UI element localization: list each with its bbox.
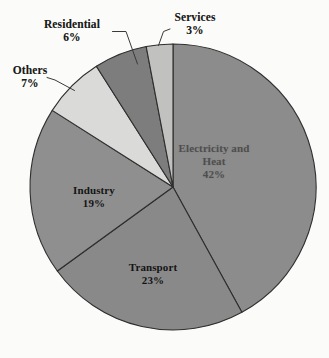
slice-label-services-pct: 3% <box>159 24 231 37</box>
slice-label-transport: Transport 23% <box>108 261 198 287</box>
slice-label-transport-pct: 23% <box>108 274 198 287</box>
slice-label-others-name: Others <box>13 64 47 76</box>
pie-chart-canvas <box>0 0 329 358</box>
slice-label-electricity-and-heat: Electricity and Heat 42% <box>168 142 260 180</box>
slice-label-others-pct: 7% <box>2 77 58 90</box>
pie-chart: Residential 6% Services 3% Others 7% Ele… <box>0 0 329 358</box>
slice-label-services-name: Services <box>174 11 215 23</box>
slice-label-residential-pct: 6% <box>28 31 116 44</box>
slice-label-electricity-and-heat-name: Electricity and <box>168 142 260 155</box>
slice-label-residential: Residential 6% <box>28 18 116 45</box>
slice-label-services: Services 3% <box>159 11 231 38</box>
slice-label-industry-name: Industry <box>56 184 132 197</box>
slice-label-residential-name: Residential <box>44 18 100 30</box>
slice-label-others: Others 7% <box>2 64 58 91</box>
slice-label-electricity-and-heat-name2: Heat <box>168 155 260 168</box>
slice-label-electricity-and-heat-pct: 42% <box>168 168 260 181</box>
slice-label-industry: Industry 19% <box>56 184 132 210</box>
slice-label-transport-name: Transport <box>108 261 198 274</box>
slice-label-industry-pct: 19% <box>56 197 132 210</box>
